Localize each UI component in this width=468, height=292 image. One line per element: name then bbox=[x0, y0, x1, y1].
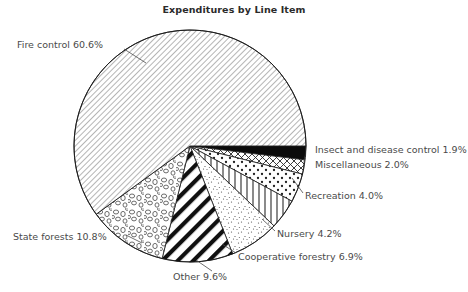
slice-label-recreation: Recreation 4.0% bbox=[305, 190, 383, 201]
pie-chart-figure: Expenditures by Line Item bbox=[0, 0, 468, 292]
slice-label-other: Other 9.6% bbox=[173, 271, 227, 282]
slice-label-insect-and-disease-control: Insect and disease control 1.9% bbox=[315, 144, 467, 155]
slice-label-miscellaneous: Miscellaneous 2.0% bbox=[315, 159, 409, 170]
slice-label-fire-control: Fire control 60.6% bbox=[17, 39, 103, 50]
slice-label-nursery: Nursery 4.2% bbox=[277, 228, 342, 239]
slice-label-cooperative-forestry: Cooperative forestry 6.9% bbox=[238, 251, 363, 262]
slice-label-state-forests: State forests 10.8% bbox=[13, 231, 107, 242]
